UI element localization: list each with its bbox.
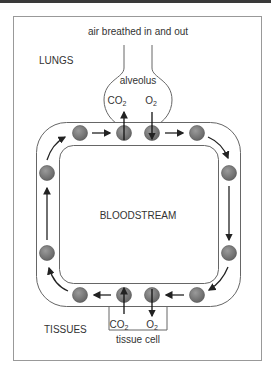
alveolus-co2-label: CO2: [108, 95, 127, 107]
blood-cell-icon: [40, 246, 55, 261]
blood-cell-icon: [190, 126, 205, 141]
blood-cell-icon: [222, 246, 237, 261]
lungs-label: LUNGS: [39, 55, 74, 66]
tissues-label: TISSUES: [44, 324, 87, 335]
blood-cell-icon: [73, 126, 88, 141]
alveolus-o2-label: O2: [145, 95, 157, 107]
tissue-cell-label: tissue cell: [116, 334, 160, 345]
blood-cell-icon: [73, 288, 88, 303]
bloodstream-label: BLOODSTREAM: [100, 210, 177, 221]
blood-cell-icon: [222, 166, 237, 181]
gas-exchange-diagram: air breathed in and out LUNGS alveolus C…: [0, 0, 271, 367]
blood-cell-icon: [190, 288, 205, 303]
blood-cell-icon: [40, 166, 55, 181]
alveolus-label: alveolus: [120, 75, 157, 86]
tissue-co2-label: CO2: [110, 319, 129, 331]
tissue-o2-label: O2: [146, 319, 158, 331]
air-label: air breathed in and out: [88, 26, 188, 37]
